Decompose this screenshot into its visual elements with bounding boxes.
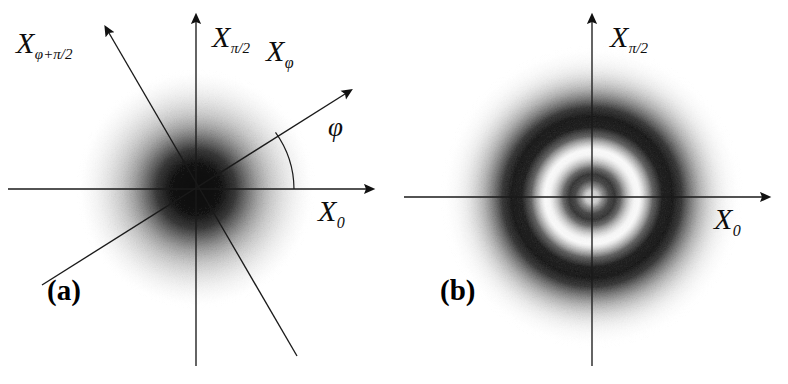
panel-b: X0 Xπ/2 (b) bbox=[394, 0, 788, 384]
axis-label-x0: X0 bbox=[318, 196, 345, 231]
panel-tag-a: (a) bbox=[47, 274, 81, 307]
figure-root: X0 Xπ/2 Xφ Xφ+π/2 φ (a) bbox=[0, 0, 788, 384]
axis-label-x0: X0 bbox=[714, 204, 741, 239]
panel-b-canvas bbox=[394, 0, 788, 384]
axis-label-xphi-plus-pi2: Xφ+π/2 bbox=[16, 28, 72, 62]
panel-tag-b: (b) bbox=[440, 274, 475, 307]
axis-label-xpi2: Xπ/2 bbox=[212, 22, 250, 56]
panel-a: X0 Xπ/2 Xφ Xφ+π/2 φ (a) bbox=[0, 0, 394, 384]
axis-label-xphi: Xφ bbox=[266, 36, 294, 71]
axis-label-xpi2: Xπ/2 bbox=[610, 22, 648, 56]
angle-label-phi: φ bbox=[328, 112, 343, 143]
